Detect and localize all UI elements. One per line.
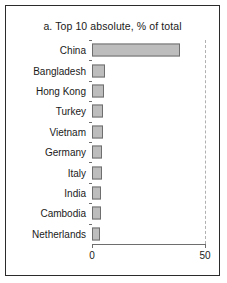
bar-category-label: Italy xyxy=(68,167,86,178)
bar xyxy=(92,44,180,57)
y-axis-tick xyxy=(89,60,93,61)
bar-row: China xyxy=(92,40,205,60)
bar-row: Germany xyxy=(92,142,205,162)
bar xyxy=(92,186,101,199)
bar-row: India xyxy=(92,183,205,203)
bar-category-label: Turkey xyxy=(56,106,86,117)
gridline-vertical-max xyxy=(205,40,206,244)
y-axis-tick xyxy=(89,142,93,143)
bar-row: Vietnam xyxy=(92,122,205,142)
x-axis-tick-label: 50 xyxy=(199,250,210,261)
bar-category-label: Cambodia xyxy=(40,208,86,219)
bar xyxy=(92,207,101,220)
bar-series: ChinaBangladeshHong KongTurkeyVietnamGer… xyxy=(92,40,205,244)
x-axis-tick xyxy=(92,244,93,248)
y-axis-tick xyxy=(89,224,93,225)
bar-category-label: Vietnam xyxy=(49,126,86,137)
bar xyxy=(92,105,103,118)
bar xyxy=(92,64,105,77)
y-axis-tick xyxy=(89,122,93,123)
bar-category-label: India xyxy=(64,187,86,198)
x-axis-line xyxy=(92,244,205,245)
y-axis-tick xyxy=(89,162,93,163)
bar-row: Cambodia xyxy=(92,203,205,223)
bar xyxy=(92,166,102,179)
y-axis-tick xyxy=(89,183,93,184)
x-axis-tick-label: 0 xyxy=(89,250,95,261)
y-axis-tick xyxy=(89,81,93,82)
bar-row: Bangladesh xyxy=(92,60,205,80)
y-axis-tick xyxy=(89,101,93,102)
bar-category-label: Hong Kong xyxy=(36,85,86,96)
chart-figure: a. Top 10 absolute, % of total ChinaBang… xyxy=(5,5,220,276)
bar-row: Turkey xyxy=(92,101,205,121)
bar-category-label: Germany xyxy=(45,147,86,158)
x-axis-tick xyxy=(205,244,206,248)
bar xyxy=(92,125,103,138)
bar-row: Netherlands xyxy=(92,224,205,244)
bar-row: Hong Kong xyxy=(92,81,205,101)
bar xyxy=(92,84,104,97)
bar-category-label: Netherlands xyxy=(32,228,86,239)
bar-row: Italy xyxy=(92,162,205,182)
bar xyxy=(92,227,100,240)
bar-category-label: Bangladesh xyxy=(33,65,86,76)
y-axis-tick xyxy=(89,40,93,41)
bar-category-label: China xyxy=(60,45,86,56)
y-axis-tick xyxy=(89,203,93,204)
bar xyxy=(92,146,102,159)
plot-area: ChinaBangladeshHong KongTurkeyVietnamGer… xyxy=(6,6,221,277)
